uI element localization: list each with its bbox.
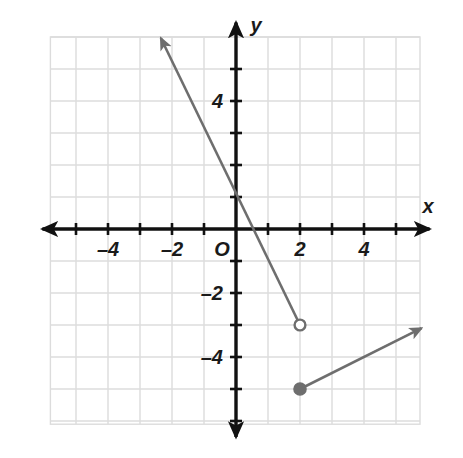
y-tick-label: –4 <box>201 346 223 368</box>
open-endpoint-marker <box>295 320 306 331</box>
x-tick-label: 2 <box>293 238 305 260</box>
axis-tick-labels: –4–2244–2–4Oxy <box>97 14 435 368</box>
axis-lines <box>42 23 429 437</box>
x-tick-label: –2 <box>161 238 183 260</box>
y-tick-label: 4 <box>211 90 223 112</box>
ray-steep-decreasing-ray <box>161 38 300 325</box>
ray-shallow-increasing-ray <box>300 328 422 389</box>
coordinate-plane-svg: –4–2244–2–4Oxy <box>0 0 463 458</box>
graph-figure: –4–2244–2–4Oxy <box>0 0 463 458</box>
plotted-rays <box>161 38 422 389</box>
x-tick-label: –4 <box>97 238 119 260</box>
x-axis-label: x <box>421 195 434 217</box>
y-axis-label: y <box>249 14 262 36</box>
y-tick-label: –2 <box>201 282 223 304</box>
x-tick-label: 4 <box>357 238 369 260</box>
closed-endpoint-marker <box>294 383 306 395</box>
origin-label: O <box>214 238 230 260</box>
